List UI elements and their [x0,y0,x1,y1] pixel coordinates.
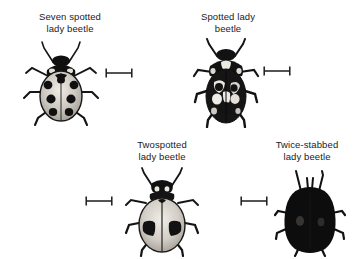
caption-line-1: Twospotted [116,139,208,151]
caption-line-1: Seven spotted [22,11,118,23]
caption-line-2: beetle [182,23,274,35]
caption-line-2: lady beetle [264,151,350,163]
caption-twice-stabbed: Twice-stabbed lady beetle [264,139,350,162]
caption-spotted: Spotted lady beetle [182,11,274,34]
caption-line-2: lady beetle [116,151,208,163]
caption-line-1: Twice-stabbed [264,139,350,151]
scale-bar-seven-spotted [105,65,133,77]
twospotted-lady-beetle-illustration [122,167,202,257]
lady-beetle-identification-figure: Seven spotted lady beetle [0,0,354,259]
spotted-lady-beetle-illustration [190,38,262,128]
twice-stabbed-lady-beetle-illustration [274,169,346,257]
caption-twospotted: Twospotted lady beetle [116,139,208,162]
scale-bar-twospotted [85,193,113,205]
caption-line-1: Spotted lady [182,11,274,23]
caption-line-2: lady beetle [22,23,118,35]
scale-bar-spotted [263,63,291,75]
seven-spotted-lady-beetle-illustration [22,40,100,126]
caption-seven-spotted: Seven spotted lady beetle [22,11,118,34]
scale-bar-twice-stabbed [240,193,268,205]
